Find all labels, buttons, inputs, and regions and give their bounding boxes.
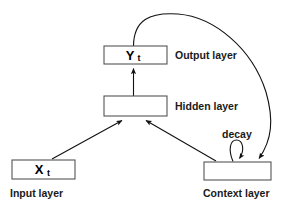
node-box-input-layer[interactable] — [12, 160, 75, 179]
node-box-output-layer[interactable] — [104, 46, 167, 64]
label-input-layer: Input layer — [10, 187, 63, 199]
input-box-symbol: X — [35, 162, 44, 177]
edge-context-self-loop-decay — [230, 140, 242, 162]
diagram-root: Y t X t Output layer Hidden layer decay … — [0, 0, 282, 212]
input-box-subscript: t — [47, 168, 50, 178]
label-decay: decay — [222, 128, 252, 140]
label-output-layer: Output layer — [175, 49, 237, 61]
node-box-context-layer[interactable] — [204, 162, 271, 180]
output-box-symbol: Y — [126, 48, 135, 63]
label-context-layer: Context layer — [203, 187, 270, 199]
edge-context-to-hidden — [146, 121, 216, 162]
edge-input-to-hidden — [52, 121, 122, 160]
output-box-subscript: t — [138, 53, 141, 63]
label-hidden-layer: Hidden layer — [175, 100, 238, 112]
network-diagram-canvas: Y t X t Output layer Hidden layer decay … — [0, 0, 282, 212]
node-box-hidden-layer[interactable] — [104, 96, 167, 116]
